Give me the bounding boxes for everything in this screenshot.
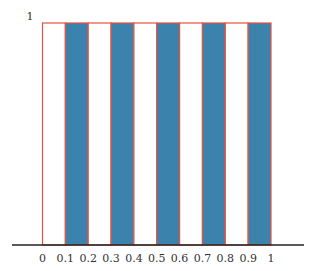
bar-7 (202, 23, 225, 245)
striped-bar-chart: 00.10.20.30.40.50.60.70.80.91 1 (0, 0, 316, 271)
x-tick-9: 0.9 (239, 252, 257, 265)
bar-2 (88, 23, 111, 245)
bar-5 (157, 23, 180, 245)
x-tick-2: 0.2 (79, 252, 97, 265)
x-tick-7: 0.7 (194, 252, 212, 265)
x-tick-6: 0.6 (171, 252, 189, 265)
bar-0 (43, 23, 66, 245)
bar-9 (248, 23, 271, 245)
x-tick-3: 0.3 (102, 252, 120, 265)
bar-8 (225, 23, 248, 245)
x-tick-labels: 00.10.20.30.40.50.60.70.80.91 (39, 252, 275, 265)
x-tick-8: 0.8 (217, 252, 235, 265)
bar-4 (134, 23, 157, 245)
y-tick-label: 1 (27, 10, 34, 23)
bars-group (43, 23, 272, 245)
bar-1 (65, 23, 88, 245)
x-tick-0: 0 (39, 252, 46, 265)
bar-6 (180, 23, 203, 245)
x-tick-10: 1 (268, 252, 275, 265)
x-tick-1: 0.1 (57, 252, 75, 265)
x-tick-5: 0.5 (148, 252, 166, 265)
x-tick-4: 0.4 (125, 252, 143, 265)
bar-3 (111, 23, 134, 245)
